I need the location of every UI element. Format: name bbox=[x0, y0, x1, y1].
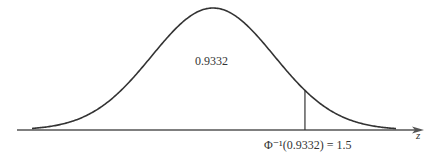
quantile-label: Φ⁻¹(0.9332) = 1.5 bbox=[264, 138, 351, 152]
normal-curve-diagram bbox=[0, 0, 437, 152]
z-axis-label: z bbox=[416, 129, 420, 141]
area-label: 0.9332 bbox=[195, 54, 228, 69]
